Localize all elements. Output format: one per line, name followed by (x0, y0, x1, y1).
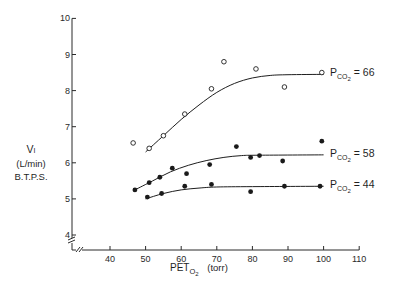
x-tick-label: 110 (352, 254, 366, 264)
x-tick-label: 50 (141, 254, 151, 264)
data-point-series-0 (131, 141, 136, 146)
chart-canvas: 45678910405060708090100110 (0, 0, 393, 292)
x-axis-label-unit: (torr) (207, 262, 228, 273)
data-point-series-1 (280, 159, 285, 164)
x-axis-label-sub: O2 (189, 267, 198, 276)
series-label-pco2-44: PCO2 = 44 (330, 178, 375, 194)
y-tick-label: 8 (65, 86, 70, 96)
x-axis-label: PETO2 (torr) (170, 262, 228, 277)
x-tick-label: 100 (316, 254, 331, 264)
axes: 45678910405060708090100110 (60, 13, 366, 264)
y-axis-label-line-3: B.T.P.S. (6, 170, 56, 183)
data-point-series-0 (161, 133, 166, 138)
y-tick-label: 9 (65, 50, 70, 60)
y-axis-label: VI (L/min) B.T.P.S. (6, 143, 56, 183)
data-point-series-0 (254, 67, 259, 72)
data-point-series-0 (182, 112, 187, 117)
data-point-series-1 (184, 171, 189, 176)
data-point-series-2 (209, 182, 214, 187)
data-point-series-1 (157, 175, 162, 180)
series-label-pco2-58: PCO2 = 58 (330, 147, 375, 163)
fit-curve-series-0 (146, 74, 324, 152)
y-axis-label-line-2: (L/min) (6, 157, 56, 170)
y-tick-label: 7 (65, 122, 70, 132)
y-tick-label: 10 (60, 13, 70, 23)
x-tick-label: 80 (247, 254, 257, 264)
data-point-series-1 (207, 162, 212, 167)
data-point-series-2 (248, 189, 253, 194)
data-points (131, 59, 324, 199)
data-point-series-2 (318, 184, 323, 189)
data-point-series-1 (257, 153, 262, 158)
x-axis-label-main: PET (170, 262, 189, 273)
y-tick-label: 5 (65, 194, 70, 204)
data-point-series-0 (209, 86, 214, 91)
data-point-series-1 (133, 187, 138, 192)
data-point-series-2 (182, 184, 187, 189)
series-label-pco2-66: PCO2 = 66 (330, 66, 375, 82)
data-point-series-1 (248, 155, 253, 160)
y-axis-label-line-1: VI (6, 143, 56, 157)
data-point-series-1 (170, 166, 175, 171)
data-point-series-2 (282, 184, 287, 189)
data-point-series-0 (147, 146, 152, 151)
y-tick-label: 6 (65, 158, 70, 168)
data-point-series-1 (234, 144, 239, 149)
data-point-series-1 (319, 139, 324, 144)
y-tick-label: 4 (65, 230, 70, 240)
data-point-series-2 (159, 191, 164, 196)
data-point-series-2 (145, 195, 150, 200)
data-point-series-1 (147, 180, 152, 185)
fit-curve-series-1 (135, 155, 324, 190)
data-point-series-0 (222, 59, 227, 64)
data-point-series-0 (282, 85, 287, 90)
axis-corner (72, 243, 76, 250)
x-tick-label: 40 (105, 254, 115, 264)
x-axis-break-icon (76, 247, 83, 252)
fit-curve-series-2 (146, 186, 324, 199)
data-point-series-0 (320, 70, 325, 75)
x-tick-label: 90 (283, 254, 293, 264)
